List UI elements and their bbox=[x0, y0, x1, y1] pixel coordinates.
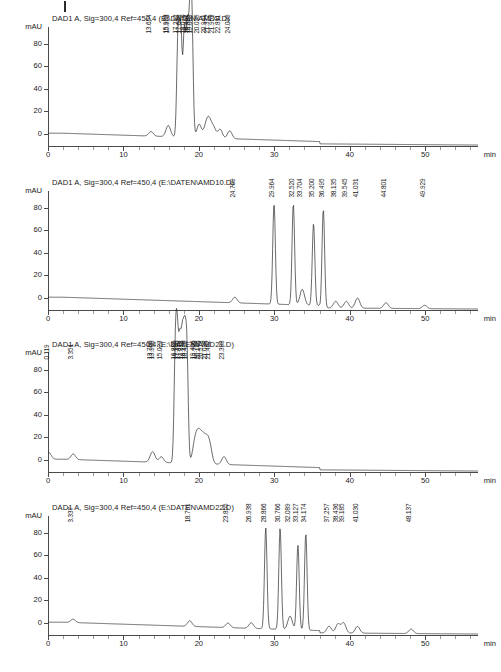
x-axis-tick bbox=[184, 636, 185, 639]
x-axis-tick bbox=[320, 147, 321, 150]
x-axis-tick bbox=[93, 636, 94, 639]
chromatogram-plot-area: mAU02040608001020304050min24.76929.96432… bbox=[48, 191, 478, 311]
x-axis-tick-label: 0 bbox=[46, 314, 50, 323]
x-axis-tick bbox=[320, 473, 321, 476]
x-axis-tick bbox=[259, 636, 260, 639]
y-axis-tick-label: 60 bbox=[34, 62, 42, 70]
x-axis-tick-label: 10 bbox=[119, 150, 127, 159]
peak-retention-time-label: 39.185 bbox=[339, 504, 346, 523]
x-axis-tick-label: 20 bbox=[195, 639, 203, 648]
y-axis-unit-label: mAU bbox=[25, 511, 42, 520]
x-axis-tick bbox=[335, 636, 336, 639]
x-axis-tick bbox=[93, 311, 94, 314]
x-axis-tick bbox=[63, 147, 64, 150]
chromatogram-trace bbox=[48, 516, 478, 636]
x-axis-tick bbox=[335, 147, 336, 150]
x-axis-tick bbox=[289, 473, 290, 476]
x-axis-tick bbox=[184, 147, 185, 150]
x-axis-tick bbox=[139, 311, 140, 314]
x-axis-tick bbox=[184, 473, 185, 476]
x-axis-tick bbox=[470, 473, 471, 476]
x-axis-tick bbox=[440, 636, 441, 639]
peak-retention-time-label: 41.031 bbox=[353, 179, 360, 198]
peak-retention-time-label: 49.929 bbox=[420, 179, 427, 198]
x-axis-tick bbox=[78, 636, 79, 639]
x-axis-tick bbox=[154, 147, 155, 150]
peak-retention-time-label: 33.704 bbox=[298, 179, 305, 198]
peak-retention-time-label: 3.351 bbox=[69, 344, 76, 360]
y-axis-tick-label: 20 bbox=[34, 433, 42, 441]
chromatogram-panel: DAD1 A, Sig=300,4 Ref=450,4 (E:\DATEN\AM… bbox=[0, 178, 501, 340]
x-axis-tick-label: 0 bbox=[46, 476, 50, 485]
y-axis-tick-label: 60 bbox=[34, 226, 42, 234]
x-axis-unit-label: min bbox=[484, 639, 496, 648]
x-axis-tick-label: 40 bbox=[346, 150, 354, 159]
y-axis-tick-label: 80 bbox=[34, 204, 42, 212]
x-axis-tick bbox=[410, 147, 411, 150]
x-axis-tick-label: 40 bbox=[346, 314, 354, 323]
x-axis-tick bbox=[244, 311, 245, 314]
x-axis-tick bbox=[380, 147, 381, 150]
x-axis-tick bbox=[289, 636, 290, 639]
peak-retention-time-label: 39.545 bbox=[342, 179, 349, 198]
x-axis-tick bbox=[455, 473, 456, 476]
x-axis-tick bbox=[440, 311, 441, 314]
x-axis-tick-label: 20 bbox=[195, 314, 203, 323]
x-axis-tick bbox=[410, 473, 411, 476]
peak-retention-time-label: 23.855 bbox=[224, 504, 231, 523]
peak-retention-time-label: 26.938 bbox=[247, 504, 254, 523]
chromatogram-title: DAD1 A, Sig=300,4 Ref=450,4 (E:\DATEN\AM… bbox=[52, 178, 234, 187]
y-axis-unit-label: mAU bbox=[25, 348, 42, 357]
x-axis-tick bbox=[229, 311, 230, 314]
x-axis-tick bbox=[244, 636, 245, 639]
y-axis-tick-label: 0 bbox=[38, 456, 42, 464]
x-axis-tick-label: 0 bbox=[46, 639, 50, 648]
chromatogram-plot-area: mAU02040608001020304050min0.1193.35113.7… bbox=[48, 353, 478, 473]
x-axis-tick bbox=[139, 147, 140, 150]
peak-retention-time-label: 41.030 bbox=[353, 504, 360, 523]
page-margin-tick-icon bbox=[64, 1, 66, 12]
x-axis-tick bbox=[244, 147, 245, 150]
x-axis-tick bbox=[259, 311, 260, 314]
x-axis-tick bbox=[108, 636, 109, 639]
peak-retention-time-label: 30.766 bbox=[276, 504, 283, 523]
chromatogram-trace bbox=[48, 353, 478, 473]
x-axis-tick bbox=[229, 147, 230, 150]
y-axis-unit-label: mAU bbox=[25, 186, 42, 195]
x-axis-tick-label: 20 bbox=[195, 150, 203, 159]
y-axis-tick-label: 0 bbox=[38, 619, 42, 627]
peak-retention-time-label: 13.654 bbox=[147, 15, 154, 34]
x-axis-tick bbox=[470, 311, 471, 314]
x-axis-tick-label: 40 bbox=[346, 639, 354, 648]
y-axis-tick-label: 20 bbox=[34, 596, 42, 604]
x-axis-tick bbox=[455, 311, 456, 314]
x-axis-tick bbox=[289, 147, 290, 150]
peak-retention-time-label: 15.958 bbox=[164, 15, 171, 34]
x-axis-tick bbox=[169, 473, 170, 476]
peak-retention-time-label: 37.257 bbox=[325, 504, 332, 523]
x-axis-tick bbox=[169, 636, 170, 639]
x-axis-tick bbox=[304, 473, 305, 476]
x-axis-tick bbox=[169, 147, 170, 150]
x-axis-tick bbox=[63, 473, 64, 476]
x-axis-tick bbox=[470, 147, 471, 150]
x-axis-tick-label: 10 bbox=[119, 314, 127, 323]
peak-retention-time-label: 0.119 bbox=[45, 345, 52, 360]
x-axis-tick bbox=[214, 147, 215, 150]
peak-retention-time-label: 44.801 bbox=[382, 179, 389, 198]
x-axis-tick bbox=[244, 473, 245, 476]
x-axis-unit-label: min bbox=[484, 150, 496, 159]
x-axis-tick-label: 30 bbox=[270, 476, 278, 485]
y-axis-tick-label: 40 bbox=[34, 411, 42, 419]
x-axis-tick bbox=[304, 147, 305, 150]
x-axis-tick bbox=[455, 147, 456, 150]
x-axis-tick bbox=[470, 636, 471, 639]
x-axis-tick-label: 30 bbox=[270, 314, 278, 323]
peak-retention-time-label: 35.200 bbox=[309, 179, 316, 198]
x-axis-tick bbox=[410, 311, 411, 314]
x-axis-tick bbox=[108, 147, 109, 150]
x-axis-tick bbox=[259, 147, 260, 150]
x-axis-tick bbox=[63, 636, 64, 639]
chromatogram-title: DAD1 A, Sig=300,4 Ref=450,4 (E:\DATEN\AM… bbox=[52, 503, 234, 512]
x-axis-tick bbox=[229, 636, 230, 639]
